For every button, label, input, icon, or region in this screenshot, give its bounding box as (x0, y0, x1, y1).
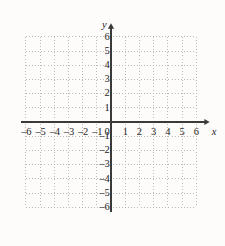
y-tick-label: –1 (99, 131, 109, 142)
y-tick-label: 4 (104, 60, 109, 71)
y-tick-label: –2 (99, 145, 109, 156)
y-tick-label: 3 (104, 74, 109, 85)
x-tick-label: 5 (179, 127, 184, 138)
x-tick-label: 2 (137, 127, 142, 138)
x-axis-arrowhead (204, 119, 209, 125)
y-tick-label: –3 (99, 159, 109, 170)
y-axis-arrowhead (108, 23, 114, 28)
x-tick-label: 3 (151, 127, 156, 138)
y-tick-label: 2 (104, 88, 109, 99)
y-tick-label: –5 (99, 188, 109, 199)
y-axis-label: y (102, 20, 107, 31)
y-tick-label: –4 (99, 174, 109, 185)
y-tick-label: 5 (104, 46, 109, 57)
grid-and-axes (0, 0, 225, 246)
y-tick-label: 6 (104, 32, 109, 43)
x-tick-label: –6 (21, 127, 31, 138)
x-tick-label: –5 (35, 127, 45, 138)
y-tick-label: 1 (104, 103, 109, 114)
x-tick-label: –2 (78, 127, 88, 138)
x-tick-label: 4 (165, 127, 170, 138)
coordinate-plane: –6–5–4–3–2–10123456 654321–1–2–3–4–5–6 x… (0, 0, 225, 246)
axis-lines (21, 23, 210, 212)
x-tick-label: 6 (194, 127, 199, 138)
x-tick-label: –4 (50, 127, 60, 138)
y-tick-label: –6 (99, 202, 109, 213)
x-axis-label: x (212, 127, 217, 138)
x-tick-label: 1 (123, 127, 128, 138)
x-tick-label: –3 (64, 127, 74, 138)
